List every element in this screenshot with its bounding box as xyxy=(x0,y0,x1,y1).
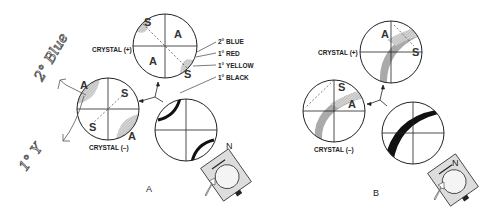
quadrant-label: S xyxy=(144,16,151,28)
connector-arrows xyxy=(367,85,387,106)
plain-light-plot-b xyxy=(382,102,444,164)
plain-light-plot-a xyxy=(155,98,217,162)
legend-black: 1° BLACK xyxy=(218,74,249,81)
diagram: S A A S CRYSTAL (+) 2° BLUE 1° RED 1° YE… xyxy=(0,0,489,210)
crystal-plus-plot-b: A S CRYSTAL (+) xyxy=(318,21,422,84)
compass-icon-a xyxy=(201,149,254,205)
quadrant-label: A xyxy=(80,79,88,91)
quadrant-label: A xyxy=(149,55,157,67)
quadrant-label: A xyxy=(348,98,356,110)
panel-label-a: A xyxy=(146,184,152,194)
crystal-plus-label: CRYSTAL (+) xyxy=(318,49,358,57)
quadrant-label: A xyxy=(174,28,182,40)
panel-b: A S CRYSTAL (+) S A CRYSTAL (–) xyxy=(303,21,481,209)
crystal-minus-plot-a: A S S A CRYSTAL (–) xyxy=(77,78,139,152)
panel-label-b: B xyxy=(373,188,379,198)
connector-arrows xyxy=(139,82,163,103)
crystal-plus-label: CRYSTAL (+) xyxy=(92,46,132,54)
quadrant-label: S xyxy=(121,87,128,99)
crystal-minus-label: CRYSTAL (–) xyxy=(89,144,129,152)
handwritten-note: 2° Blue xyxy=(30,30,71,84)
quadrant-label: A xyxy=(128,130,136,142)
quadrant-label: S xyxy=(184,68,191,80)
legend-yellow: 1° YELLOW xyxy=(218,62,255,69)
crystal-minus-plot-b: S A CRYSTAL (–) xyxy=(303,80,365,154)
legend-red: 1° RED xyxy=(218,50,240,57)
crystal-plus-plot-a: S A A S CRYSTAL (+) xyxy=(92,14,197,80)
interference-band xyxy=(330,91,362,108)
legend-blue: 2° BLUE xyxy=(218,38,244,45)
quadrant-label: S xyxy=(412,46,419,58)
quadrant-label: S xyxy=(338,81,345,93)
handwritten-notes: 2° Blue 1° Y xyxy=(15,30,86,174)
quadrant-label: S xyxy=(89,121,96,133)
compass-north-label: N xyxy=(226,141,233,151)
quadrant-label: A xyxy=(381,28,389,40)
panel-a: S A A S CRYSTAL (+) 2° BLUE 1° RED 1° YE… xyxy=(15,14,254,204)
handwritten-note: 1° Y xyxy=(15,139,46,174)
compass-north-label: N xyxy=(452,158,459,168)
crystal-minus-label: CRYSTAL (–) xyxy=(314,146,354,154)
